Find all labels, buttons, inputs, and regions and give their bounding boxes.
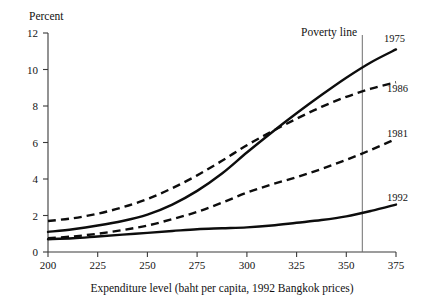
series-paths <box>48 49 396 239</box>
series-label-1986: 1986 <box>387 83 408 94</box>
x-tick-label-350: 350 <box>338 259 355 271</box>
x-tick-label-225: 225 <box>89 259 106 271</box>
series-line-1986 <box>48 82 396 221</box>
chart-figure: 0 2 4 6 8 10 12 200 225 250 275 300 325 … <box>0 0 434 302</box>
y-tick-label-4: 4 <box>33 173 39 185</box>
x-tick-label-250: 250 <box>139 259 156 271</box>
y-tick-label-2: 2 <box>33 210 39 222</box>
x-tick-marks <box>48 252 396 257</box>
x-tick-label-300: 300 <box>239 259 256 271</box>
y-tick-label-6: 6 <box>33 137 39 149</box>
x-tick-label-375: 375 <box>388 259 405 271</box>
series-label-1975: 1975 <box>384 33 405 44</box>
x-axis-title: Expenditure level (baht per capita, 1992… <box>90 282 353 295</box>
y-tick-label-10: 10 <box>27 64 39 76</box>
y-axis-title: Percent <box>29 10 64 22</box>
y-tick-label-0: 0 <box>33 246 39 258</box>
series-line-1981 <box>48 139 396 238</box>
poverty-line-label: Poverty line <box>301 26 357 39</box>
x-tick-label-275: 275 <box>189 259 206 271</box>
series-label-1981: 1981 <box>387 128 408 139</box>
series-line-1975 <box>48 49 396 232</box>
x-tick-label-325: 325 <box>288 259 305 271</box>
y-tick-label-12: 12 <box>27 27 38 39</box>
line-chart-canvas: 0 2 4 6 8 10 12 200 225 250 275 300 325 … <box>0 0 434 302</box>
y-tick-label-8: 8 <box>33 100 39 112</box>
y-tick-marks <box>43 33 48 252</box>
series-label-1992: 1992 <box>387 192 408 203</box>
x-tick-label-200: 200 <box>40 259 57 271</box>
